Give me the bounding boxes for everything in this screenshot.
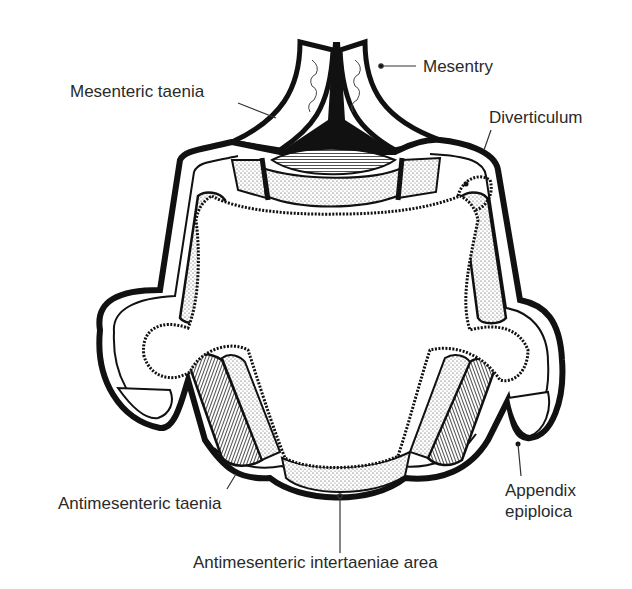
mesentery-stalk: [232, 42, 440, 152]
label-antimesenteric-intertaeniae-area: Antimesenteric intertaeniae area: [193, 553, 438, 573]
label-diverticulum: Diverticulum: [489, 108, 583, 128]
label-mesenteric-taenia: Mesenteric taenia: [70, 82, 204, 102]
label-mesentry: Mesentry: [423, 57, 493, 77]
label-antimesenteric-taenia: Antimesenteric taenia: [58, 494, 221, 514]
label-appendix-epiploica: Appendix epiploica: [505, 480, 576, 522]
